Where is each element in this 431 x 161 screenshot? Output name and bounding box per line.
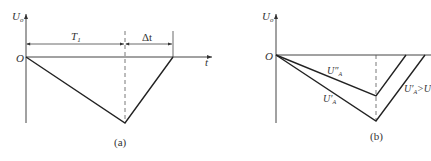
origin-label: O bbox=[265, 50, 273, 62]
curve-upper-label: U″A bbox=[327, 65, 342, 77]
caption-a: (a) bbox=[114, 136, 127, 149]
y-axis-label: Uo bbox=[262, 10, 274, 24]
dt-label: Δt bbox=[142, 31, 152, 43]
waveform bbox=[26, 57, 173, 123]
curve-lower-right-label: U′A>U bbox=[404, 83, 431, 95]
curve-lower-label: U′A bbox=[323, 93, 336, 105]
integrator-waveform-diagram: Uo O t T1 Δt (a) Uo O U″A U′A U′A>U (b) bbox=[0, 0, 431, 161]
t1-label: T1 bbox=[71, 30, 81, 44]
y-axis-label: Uo bbox=[12, 10, 24, 24]
origin-label: O bbox=[16, 52, 24, 64]
panel-b: Uo O U″A U′A U′A>U (b) bbox=[262, 10, 431, 143]
panel-a: Uo O t T1 Δt (a) bbox=[12, 10, 212, 149]
caption-b: (b) bbox=[370, 130, 383, 143]
x-axis-label: t bbox=[205, 56, 209, 68]
